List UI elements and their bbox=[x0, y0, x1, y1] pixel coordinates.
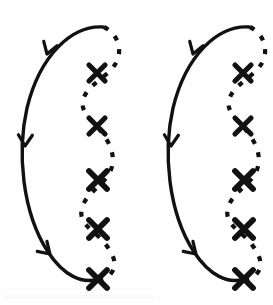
diagram-canvas bbox=[0, 0, 273, 305]
bottom-artifact bbox=[4, 295, 154, 299]
canvas-background bbox=[0, 0, 273, 305]
figure-container bbox=[0, 0, 273, 305]
